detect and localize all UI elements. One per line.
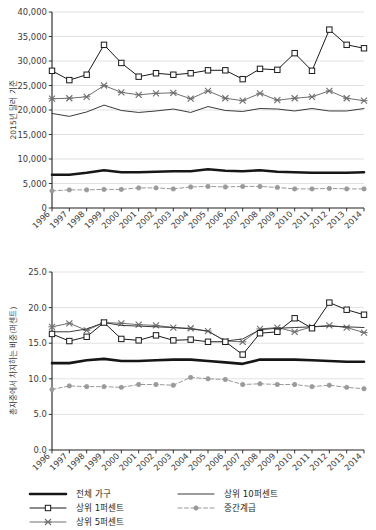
data-point-marker-square bbox=[240, 352, 245, 357]
x-axis-year-label: 2000 bbox=[99, 209, 121, 231]
data-point-marker-square bbox=[153, 71, 158, 76]
data-point-marker-square bbox=[361, 312, 366, 317]
data-point-marker-x bbox=[308, 94, 315, 100]
x-axis-year-label: 2002 bbox=[134, 209, 156, 231]
x-axis-year-label: 2013 bbox=[325, 451, 347, 473]
figure-container: 05,00010,00015,00020,00025,00030,00035,0… bbox=[0, 0, 376, 530]
x-axis-year-label: 2010 bbox=[273, 451, 295, 473]
data-point-marker-square bbox=[119, 336, 124, 341]
y-axis-tick-label: 20,000 bbox=[17, 105, 46, 115]
x-axis-year-label: 2014 bbox=[342, 209, 364, 231]
data-point-marker-circle bbox=[171, 383, 175, 387]
x-axis-year-label: 2003 bbox=[151, 209, 173, 231]
x-axis-year-label: 2008 bbox=[238, 451, 260, 473]
y-axis-title: 2015년 달러 기준 bbox=[8, 80, 18, 139]
legend-label-total_households: 전체 가구 bbox=[76, 489, 111, 499]
data-point-marker-square bbox=[327, 27, 332, 32]
y-axis-tick-label: 25.0 bbox=[28, 267, 47, 277]
legend-item-top1: 상위 1퍼센트 bbox=[30, 503, 124, 513]
data-point-marker-square bbox=[257, 66, 262, 71]
data-point-marker-circle bbox=[327, 383, 331, 387]
series-total_households bbox=[52, 359, 364, 364]
data-point-marker-circle bbox=[50, 189, 54, 193]
data-point-marker-square bbox=[344, 42, 349, 47]
data-point-marker-x bbox=[360, 98, 367, 104]
x-axis-year-label: 1997 bbox=[47, 451, 69, 473]
x-axis-year-label: 2007 bbox=[221, 451, 243, 473]
x-axis-year-label: 2013 bbox=[325, 209, 347, 231]
data-point-marker-circle bbox=[206, 377, 210, 381]
x-axis-year-label: 2008 bbox=[238, 209, 260, 231]
legend-item-top5: 상위 5퍼센트 bbox=[30, 517, 124, 527]
y-axis-tick-label: 15.0 bbox=[28, 338, 47, 348]
legend-label-middle_class: 중간계급 bbox=[224, 502, 256, 513]
data-point-marker-x bbox=[187, 325, 194, 331]
y-axis-tick-label: 5,000 bbox=[23, 179, 47, 189]
data-point-marker-x bbox=[83, 94, 90, 100]
data-point-marker-circle bbox=[84, 188, 88, 192]
data-point-marker-square bbox=[361, 46, 366, 51]
x-axis-year-label: 2010 bbox=[273, 209, 295, 231]
data-point-marker-square bbox=[136, 74, 141, 79]
data-point-marker-circle bbox=[275, 185, 279, 189]
chart-legend: 전체 가구상위 1퍼센트상위 5퍼센트상위 10퍼센트중간계급 bbox=[30, 489, 278, 527]
x-axis-year-label: 2007 bbox=[221, 209, 243, 231]
data-point-marker-circle bbox=[362, 187, 366, 191]
x-axis-year-label: 2012 bbox=[307, 451, 329, 473]
data-point-marker-square bbox=[327, 300, 332, 305]
y-axis-tick-label: 10.0 bbox=[28, 374, 47, 384]
y-axis-tick-label: 40,000 bbox=[17, 7, 46, 17]
data-point-marker-circle bbox=[102, 187, 106, 191]
y-axis-tick-label: 30,000 bbox=[17, 56, 46, 66]
x-axis-year-label: 2004 bbox=[169, 451, 191, 473]
x-axis-year-label: 1998 bbox=[65, 451, 87, 473]
data-point-marker-x bbox=[291, 95, 298, 101]
x-axis-year-label: 2006 bbox=[203, 451, 225, 473]
x-axis-year-label: 2009 bbox=[255, 209, 277, 231]
series-total_households bbox=[52, 169, 364, 174]
series-middle_class bbox=[50, 375, 366, 392]
data-point-marker-square bbox=[257, 331, 262, 336]
x-axis-year-label: 2003 bbox=[151, 451, 173, 473]
data-point-marker-square bbox=[292, 316, 297, 321]
data-point-marker-circle bbox=[292, 382, 296, 386]
data-point-marker-circle bbox=[240, 184, 244, 188]
series-line-top1 bbox=[52, 303, 364, 355]
legend-label-top1: 상위 1퍼센트 bbox=[76, 503, 124, 513]
data-point-marker-x bbox=[326, 322, 333, 328]
data-point-marker-circle bbox=[223, 377, 227, 381]
legend-label-top5: 상위 5퍼센트 bbox=[76, 517, 124, 527]
data-point-marker-x bbox=[187, 96, 194, 102]
data-point-marker-x bbox=[66, 95, 73, 101]
x-axis-year-label: 2000 bbox=[99, 451, 121, 473]
series-top1 bbox=[49, 27, 366, 83]
data-point-marker-circle bbox=[327, 186, 331, 190]
data-point-marker-x bbox=[66, 320, 73, 326]
data-point-marker-x bbox=[291, 329, 298, 335]
data-point-marker-x bbox=[239, 98, 246, 104]
data-point-marker-x bbox=[326, 88, 333, 94]
data-point-marker-circle bbox=[188, 185, 192, 189]
data-point-marker-square bbox=[136, 338, 141, 343]
data-point-marker-x bbox=[222, 95, 229, 101]
data-point-marker-circle bbox=[344, 385, 348, 389]
data-point-marker-square bbox=[188, 71, 193, 76]
data-point-marker-square bbox=[119, 60, 124, 65]
legend-item-top10: 상위 10퍼센트 bbox=[178, 489, 278, 499]
data-point-marker-circle bbox=[206, 184, 210, 188]
data-point-marker-circle bbox=[310, 384, 314, 388]
series-top1 bbox=[49, 300, 366, 357]
x-axis-year-label: 2005 bbox=[186, 209, 208, 231]
data-point-marker-square bbox=[67, 338, 72, 343]
data-point-marker-square bbox=[309, 68, 314, 73]
data-point-marker-circle bbox=[102, 384, 106, 388]
data-point-marker-square bbox=[171, 72, 176, 77]
data-point-marker-square bbox=[188, 337, 193, 342]
data-point-marker-x bbox=[135, 92, 142, 98]
data-point-marker-circle bbox=[171, 187, 175, 191]
data-point-marker-square bbox=[84, 72, 89, 77]
data-point-marker-x bbox=[100, 83, 107, 89]
y-axis-tick-label: 5.0 bbox=[33, 409, 46, 419]
x-axis-year-label: 1999 bbox=[82, 209, 104, 231]
legend-item-middle_class: 중간계급 bbox=[178, 502, 256, 513]
